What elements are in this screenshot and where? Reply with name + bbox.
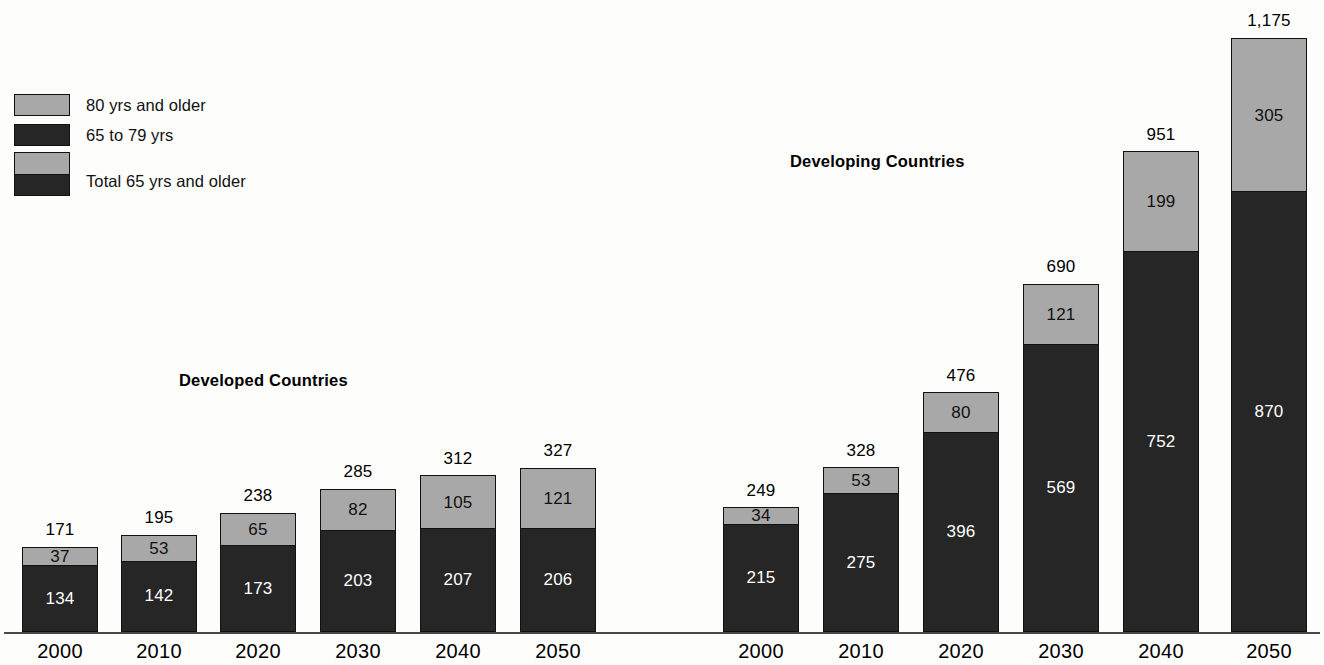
bar-segment-80-and-older: 121 (520, 468, 596, 529)
x-tick-5-2050: 2050 (520, 640, 596, 663)
x-tick-8-2020: 2020 (923, 640, 999, 663)
bar-segment-value-80-and-older: 121 (1047, 306, 1076, 323)
plot-area: 1343717114253195173652382038228520710531… (0, 0, 1324, 665)
bar-segment-value-65-to-79: 215 (747, 569, 776, 586)
bar-total-label: 285 (320, 462, 396, 482)
bar-segment-value-65-to-79: 275 (847, 554, 876, 571)
bar-total-label: 690 (1023, 257, 1099, 277)
bar-total-label: 195 (121, 508, 197, 528)
bar-segment-65-to-79: 396 (923, 431, 999, 632)
bar-segment-value-80-and-older: 82 (348, 501, 367, 518)
bar-segment-80-and-older: 305 (1231, 38, 1307, 193)
bar-segment-value-80-and-older: 80 (951, 404, 970, 421)
bar-segment-80-and-older: 37 (22, 547, 98, 566)
bar-developed-2040: 207105312 (420, 474, 496, 632)
bar-developed-2050: 206121327 (520, 466, 596, 632)
bar-developing-2010: 27553328 (823, 466, 899, 632)
bar-segment-80-and-older: 80 (923, 392, 999, 433)
bar-developing-2020: 39680476 (923, 391, 999, 632)
bar-total-label: 328 (823, 441, 899, 461)
bar-segment-value-80-and-older: 65 (248, 521, 267, 538)
bar-segment-value-65-to-79: 870 (1255, 403, 1284, 420)
bar-segment-value-65-to-79: 206 (544, 571, 573, 588)
bar-developed-2000: 13437171 (22, 545, 98, 632)
bar-segment-value-65-to-79: 203 (344, 572, 373, 589)
bar-segment-value-80-and-older: 105 (444, 494, 473, 511)
x-tick-11-2050: 2050 (1231, 640, 1307, 663)
bar-segment-65-to-79: 207 (420, 527, 496, 632)
bar-segment-value-80-and-older: 37 (50, 548, 69, 565)
x-tick-1-2010: 2010 (121, 640, 197, 663)
bar-segment-65-to-79: 206 (520, 528, 596, 632)
bar-segment-value-65-to-79: 396 (947, 523, 976, 540)
x-tick-0-2000: 2000 (22, 640, 98, 663)
x-tick-2-2020: 2020 (220, 640, 296, 663)
bar-segment-80-and-older: 121 (1023, 284, 1099, 345)
bar-segment-value-65-to-79: 142 (145, 587, 174, 604)
bar-segment-65-to-79: 215 (723, 523, 799, 632)
bar-segment-value-80-and-older: 305 (1255, 107, 1284, 124)
bar-total-label: 327 (520, 441, 596, 461)
bar-developing-2030: 569121690 (1023, 282, 1099, 632)
x-tick-3-2030: 2030 (320, 640, 396, 663)
bar-developing-2000: 21534249 (723, 506, 799, 632)
bar-total-label: 951 (1123, 125, 1199, 145)
bar-developed-2010: 14253195 (121, 533, 197, 632)
bar-segment-65-to-79: 173 (220, 544, 296, 632)
bar-segment-value-80-and-older: 53 (149, 540, 168, 557)
x-tick-6-2000: 2000 (723, 640, 799, 663)
bar-segment-80-and-older: 199 (1123, 151, 1199, 252)
bar-segment-value-65-to-79: 173 (244, 580, 273, 597)
bar-segment-80-and-older: 105 (420, 475, 496, 528)
x-tick-9-2030: 2030 (1023, 640, 1099, 663)
bar-segment-value-65-to-79: 569 (1047, 479, 1076, 496)
bar-segment-value-80-and-older: 34 (751, 507, 770, 524)
bar-segment-65-to-79: 142 (121, 560, 197, 632)
x-tick-4-2040: 2040 (420, 640, 496, 663)
chart-container: 80 yrs and older 65 to 79 yrs Total 65 y… (0, 0, 1324, 665)
bar-segment-80-and-older: 53 (823, 467, 899, 494)
bar-developing-2050: 8703051,175 (1231, 36, 1307, 632)
bar-segment-80-and-older: 82 (320, 489, 396, 531)
bar-segment-65-to-79: 134 (22, 564, 98, 632)
bar-segment-65-to-79: 275 (823, 493, 899, 632)
bar-segment-80-and-older: 34 (723, 507, 799, 524)
bar-segment-value-80-and-older: 199 (1147, 193, 1176, 210)
bar-segment-value-65-to-79: 134 (46, 590, 75, 607)
bar-total-label: 238 (220, 486, 296, 506)
x-axis-line (4, 632, 1320, 634)
bar-segment-value-80-and-older: 53 (851, 472, 870, 489)
bar-segment-65-to-79: 870 (1231, 191, 1307, 632)
bar-segment-65-to-79: 203 (320, 529, 396, 632)
x-tick-10-2040: 2040 (1123, 640, 1199, 663)
bar-developing-2040: 752199951 (1123, 150, 1199, 632)
bar-total-label: 312 (420, 449, 496, 469)
bar-total-label: 476 (923, 366, 999, 386)
bar-segment-value-65-to-79: 207 (444, 571, 473, 588)
bar-developed-2020: 17365238 (220, 511, 296, 632)
bar-segment-value-65-to-79: 752 (1147, 433, 1176, 450)
bar-total-label: 171 (22, 520, 98, 540)
bar-segment-65-to-79: 752 (1123, 251, 1199, 632)
bar-developed-2030: 20382285 (320, 487, 396, 632)
bar-total-label: 1,175 (1231, 11, 1307, 31)
bar-segment-65-to-79: 569 (1023, 343, 1099, 632)
bar-segment-80-and-older: 53 (121, 535, 197, 562)
bar-segment-value-80-and-older: 121 (544, 490, 573, 507)
bar-total-label: 249 (723, 481, 799, 501)
x-tick-7-2010: 2010 (823, 640, 899, 663)
bar-segment-80-and-older: 65 (220, 513, 296, 546)
